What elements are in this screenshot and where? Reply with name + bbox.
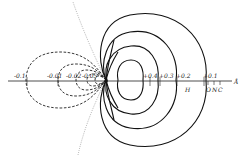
label-minus-0.01: -0.01 xyxy=(47,72,62,79)
contour-plus-0.4 xyxy=(118,60,144,100)
label-minus-0.02: -0.02 xyxy=(66,72,82,79)
nucleus-dot xyxy=(104,79,108,83)
atom-label-c: C xyxy=(218,86,223,93)
atom-label-o: O xyxy=(206,86,211,93)
orbital-contour-diagram: -0.1 -0.01 -0.02 -0.05 +0.4 +0.3 +0.2 +0… xyxy=(0,0,247,158)
negative-lobe xyxy=(26,52,106,108)
atom-label-n: N xyxy=(211,86,218,93)
contour-plus-0.2 xyxy=(104,31,177,128)
contour-minus-0.1 xyxy=(26,52,106,108)
label-plus-0.2: +0.2 xyxy=(176,72,191,79)
contour-minus-0.01 xyxy=(58,64,106,96)
contour-plus-0.3 xyxy=(106,46,158,114)
contour-plus-0.1 xyxy=(100,13,206,146)
atom-label-h: H xyxy=(184,86,191,93)
label-minus-0.1: -0.1 xyxy=(14,72,26,79)
label-plus-0.3: +0.3 xyxy=(159,72,174,79)
label-plus-0.1: +0.1 xyxy=(203,72,218,79)
label-minus-0.05: -0.05 xyxy=(82,72,98,79)
axis-unit-label: Å xyxy=(233,78,238,85)
label-plus-0.4: +0.4 xyxy=(143,72,158,79)
positive-lobe xyxy=(100,13,206,146)
